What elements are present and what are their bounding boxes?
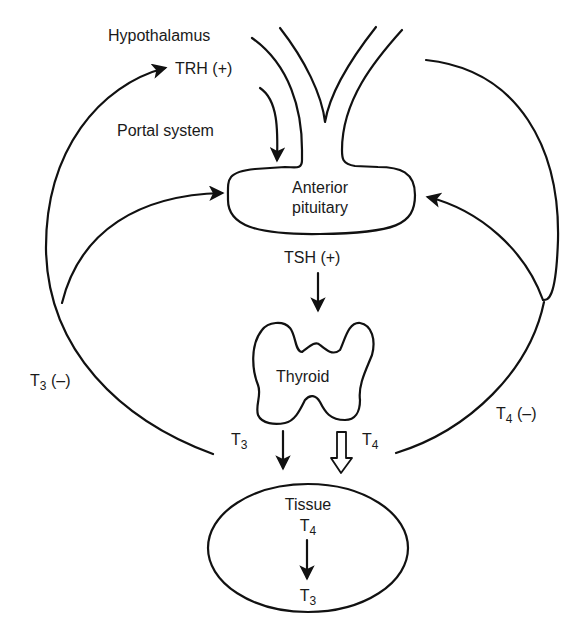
tissue-label: Tissue xyxy=(258,497,358,513)
t4-feedback-pituitary-arrow xyxy=(428,197,543,300)
portal-system-label: Portal system xyxy=(117,123,214,139)
hypothalamus-label: Hypothalamus xyxy=(108,28,210,44)
t3-feedback-label: T3 (–) xyxy=(30,373,70,392)
tissue-t3-label: T3 xyxy=(258,588,358,607)
t4-feedback-hypothalamus-line xyxy=(426,60,558,300)
t3-output-label: T3 xyxy=(231,432,247,451)
trh-label: TRH (+) xyxy=(175,61,232,77)
anterior-pituitary-label-line1: Anterior xyxy=(268,180,372,196)
portal-system-arrow xyxy=(260,88,277,160)
t4-output-label: T4 xyxy=(362,432,378,451)
tsh-label: TSH (+) xyxy=(284,250,340,266)
diagram-canvas xyxy=(0,0,581,638)
t4-feedback-label: T4 (–) xyxy=(496,406,536,425)
anterior-pituitary-label-line2: pituitary xyxy=(268,200,372,216)
t4-hollow-arrow xyxy=(331,432,352,473)
tissue-t4-label: T4 xyxy=(258,518,358,537)
thyroid-axis-diagram: Hypothalamus TRH (+) Portal system Anter… xyxy=(0,0,581,638)
thyroid-label: Thyroid xyxy=(276,369,329,385)
t3-feedback-pituitary-arrow xyxy=(62,193,222,303)
t4-feedback-curve xyxy=(396,302,544,453)
stalk-inner-curve xyxy=(280,27,376,122)
